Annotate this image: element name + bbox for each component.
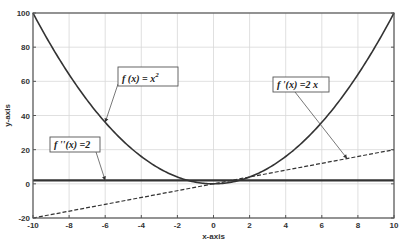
grid-lines	[33, 13, 394, 218]
x-axis-label: x-axis	[202, 232, 225, 241]
y-tick-label: 80	[21, 43, 30, 52]
x-tick-label: -6	[102, 221, 110, 230]
annotation-arrowhead	[343, 154, 347, 158]
annotations: f (x) = x2f '(x) =2 xf ''(x) =2	[50, 67, 347, 180]
x-tick-label: 2	[247, 221, 252, 230]
x-tick-label: -8	[66, 221, 74, 230]
annotation-arrow-line	[105, 84, 118, 122]
x-tick-label: 10	[390, 221, 399, 230]
y-ticks: -20020406080100	[17, 9, 394, 223]
annotation-2: f '(x) =2 x	[273, 77, 347, 159]
x-ticks: -10-8-6-4-20246810	[27, 215, 399, 230]
annotation-text: f '(x) =2 x	[277, 79, 318, 91]
y-axis-label: y-axis	[3, 104, 12, 127]
annotation-arrowhead	[105, 118, 109, 122]
y-tick-label: 100	[17, 9, 31, 18]
y-tick-label: -20	[18, 214, 30, 223]
x-tick-label: 8	[356, 221, 361, 230]
y-tick-label: 20	[21, 146, 30, 155]
x-tick-label: 6	[320, 221, 325, 230]
chart: -10-8-6-4-20246810 -20020406080100 f (x)…	[0, 0, 408, 243]
x-tick-label: -4	[138, 221, 146, 230]
x-tick-label: 4	[283, 221, 288, 230]
annotation-text-superscript: 2	[154, 71, 159, 79]
annotation-text: f (x) = x2	[122, 71, 159, 85]
y-tick-label: 0	[26, 180, 31, 189]
x-tick-label: -2	[174, 221, 182, 230]
annotation-text-main: f ''(x) =2	[54, 139, 90, 151]
annotation-arrow-line	[96, 152, 105, 180]
annotation-3: f ''(x) =2	[50, 137, 106, 180]
y-tick-label: 60	[21, 77, 30, 86]
y-tick-label: 40	[21, 112, 30, 121]
annotation-text: f ''(x) =2	[54, 139, 90, 151]
x-tick-label: 0	[211, 221, 216, 230]
annotation-text-main: f '(x) =2 x	[277, 79, 318, 91]
annotation-text-main: f (x) = x	[122, 73, 155, 85]
